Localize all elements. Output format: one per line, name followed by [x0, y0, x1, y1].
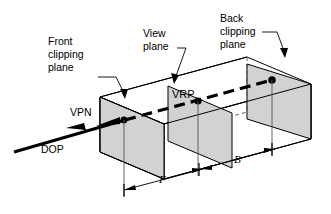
back-clipping-plane-label-line3: plane: [220, 38, 246, 50]
vpn-label: VPN: [70, 106, 92, 118]
dop-arrowhead-icon: [66, 123, 86, 130]
back-clipping-plane-label-line2: clipping: [220, 25, 256, 37]
view-plane-label-line1: View: [143, 27, 166, 39]
dimension-B-label: B: [234, 153, 241, 165]
front-clipping-plane-label-line1: Front: [48, 35, 73, 47]
view-plane-label-line2: plane: [143, 40, 169, 52]
leader-view-plane-elbow: [176, 48, 186, 76]
leader-back-clipping-plane-arrowhead-icon: [280, 48, 288, 58]
dimension-F-label: F: [158, 173, 166, 185]
vrp-label: VRP: [172, 88, 195, 100]
front-clipping-plane-label-line3: plane: [48, 61, 74, 73]
front-clipping-plane-label-line2: clipping: [48, 48, 84, 60]
view-volume-figure: Front clipping plane View plane Back cli…: [0, 0, 331, 214]
dimension-F-left-arrowhead-icon: [124, 185, 136, 190]
back-clipping-plane-label-line1: Back: [220, 12, 244, 24]
figure-canvas: Front clipping plane View plane Back cli…: [0, 0, 331, 214]
dop-label: DOP: [41, 143, 64, 155]
